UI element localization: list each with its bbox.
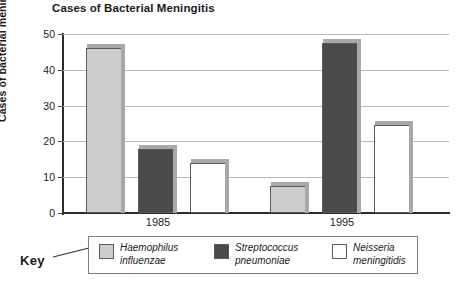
legend-item-streptococcus-pneumoniae: Streptococcus pneumoniae (214, 242, 298, 267)
legend-label: Streptococcus pneumoniae (235, 242, 298, 267)
y-tick-label: 50 (43, 28, 55, 40)
bar-1985-neisseria-meningitidis (190, 163, 226, 213)
bar-fill (191, 164, 225, 212)
bar-1995-neisseria-meningitidis (374, 125, 410, 213)
legend-swatch-icon (214, 244, 229, 259)
y-tick-label: 30 (43, 100, 55, 112)
bar-chart-figure: Cases of Bacterial Meningitis Cases of b… (0, 0, 461, 284)
legend-item-haemophilus-influenzae: Haemophilus influenzae (99, 242, 178, 267)
bar-1985-haemophilus-influenzae (86, 48, 122, 213)
bar-fill (139, 150, 173, 212)
legend-item-neisseria-meningitidis: Neisseria meningitidis (332, 242, 406, 267)
legend-swatch-icon (99, 244, 114, 259)
x-tick-label-1985: 1985 (146, 216, 170, 228)
bar-fill (87, 49, 121, 212)
y-axis-title: Cases of bacterial meningitis (%) (0, 0, 8, 122)
bar-1985-streptococcus-pneumoniae (138, 149, 174, 213)
y-tick-label: 10 (43, 171, 55, 183)
y-tick-mark (58, 141, 63, 142)
y-tick-label: 0 (49, 207, 55, 219)
bar-fill (375, 126, 409, 212)
y-tick-mark (58, 177, 63, 178)
legend-title: Key (20, 253, 45, 268)
y-tick-mark (58, 34, 63, 35)
bar-fill (271, 187, 305, 212)
y-tick-mark (58, 213, 63, 214)
bar-1995-haemophilus-influenzae (270, 186, 306, 213)
y-tick-mark (58, 70, 63, 71)
x-tick-label-1995: 1995 (330, 216, 354, 228)
legend-swatch-icon (332, 244, 347, 259)
y-tick-label: 40 (43, 64, 55, 76)
y-tick-label: 20 (43, 135, 55, 147)
bar-fill (323, 44, 357, 212)
legend-label: Haemophilus influenzae (120, 242, 178, 267)
plot-area: 0 10 20 30 40 50 (63, 34, 449, 213)
legend: Haemophilus influenzae Streptococcus pne… (88, 236, 418, 274)
legend-leader-line (53, 247, 89, 259)
gridline (63, 34, 449, 35)
y-tick-mark (58, 106, 63, 107)
legend-label: Neisseria meningitidis (353, 242, 406, 267)
chart-title: Cases of Bacterial Meningitis (52, 2, 215, 14)
bar-1995-streptococcus-pneumoniae (322, 43, 358, 213)
